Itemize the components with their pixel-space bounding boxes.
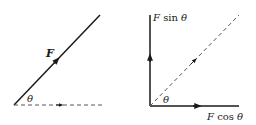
horizontal-component-label: F cos θ xyxy=(206,111,243,122)
vertical-component-label: F sin θ xyxy=(152,12,187,23)
angle-label: θ xyxy=(27,93,33,104)
force-label: F xyxy=(45,47,55,60)
force-diagrams: F θ F sin θ F cos θ θ xyxy=(0,0,256,125)
left-diagram: F θ xyxy=(14,15,103,105)
resultant-arrow-icon xyxy=(191,60,195,64)
angle-label: θ xyxy=(163,94,169,105)
right-diagram: F sin θ F cos θ θ xyxy=(150,12,243,122)
